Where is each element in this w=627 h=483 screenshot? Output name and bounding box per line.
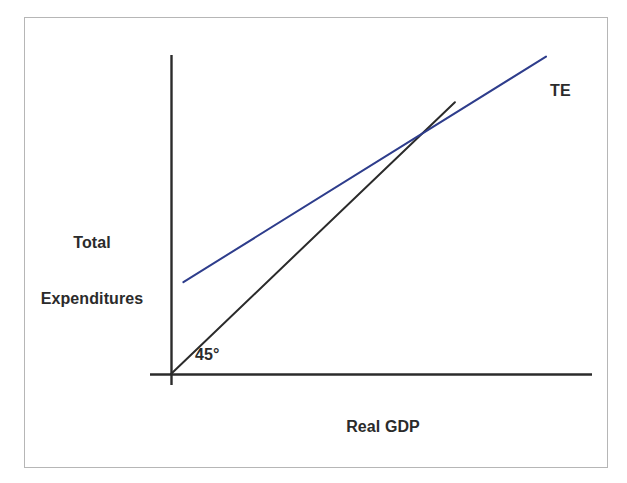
forty-five-degree-label: 45° <box>195 346 220 365</box>
y-axis-title-line-1: Total <box>18 234 166 253</box>
te-curve-label: TE <box>550 82 571 101</box>
y-axis-title: Total Expenditures <box>18 196 166 347</box>
figure-root: Total Expenditures Real GDP 45° TE <box>0 0 627 483</box>
x-axis-title: Real GDP <box>300 418 466 437</box>
forty-five-degree-line <box>171 102 455 374</box>
te-curve-line <box>183 57 546 283</box>
y-axis-title-line-2: Expenditures <box>18 290 166 309</box>
